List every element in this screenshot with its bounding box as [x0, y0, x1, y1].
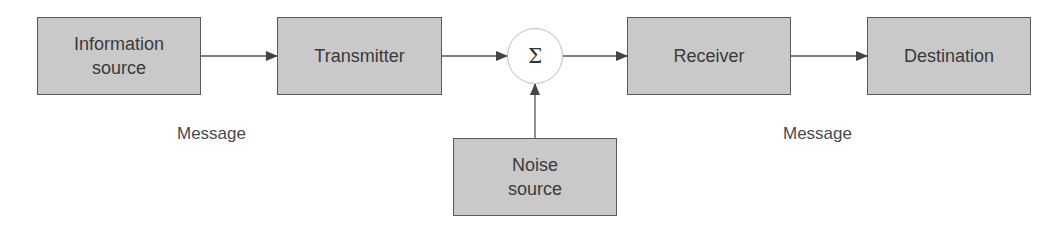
sigma-icon: Σ [528, 44, 542, 68]
information-source-block: Information source [37, 17, 201, 95]
noise-source-label: Noise source [508, 153, 562, 201]
destination-block: Destination [867, 17, 1031, 95]
transmitter-block: Transmitter [277, 17, 442, 95]
communication-system-diagram: Information source Transmitter Σ Receive… [0, 0, 1060, 228]
transmitter-label: Transmitter [314, 44, 404, 68]
noise-source-block: Noise source [453, 138, 617, 216]
information-source-label: Information source [74, 32, 164, 80]
receiver-label: Receiver [673, 44, 744, 68]
message-label-right: Message [783, 124, 852, 144]
receiver-block: Receiver [627, 17, 791, 95]
summing-junction: Σ [507, 28, 563, 84]
destination-label: Destination [904, 44, 994, 68]
message-label-left: Message [177, 124, 246, 144]
